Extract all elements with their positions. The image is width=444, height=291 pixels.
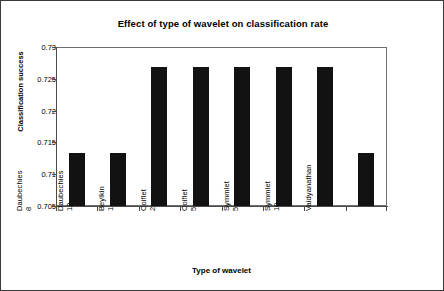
bar bbox=[151, 67, 167, 206]
y-axis-tick-label: 0.725 bbox=[22, 74, 56, 83]
y-axis-tick-label: 0.73 bbox=[22, 43, 56, 52]
bar bbox=[193, 67, 209, 206]
y-axis-tick-labels: 0.7050.710.7150.720.7250.73 bbox=[1, 1, 56, 291]
chart-title: Effect of type of wavelet on classificat… bbox=[1, 18, 444, 29]
x-axis-tick-labels: Daubechies 8Daubechies 12Beylkin 1Coifle… bbox=[56, 211, 387, 263]
x-axis-title: Type of wavelet bbox=[56, 266, 387, 275]
y-axis-tick-label: 0.72 bbox=[22, 106, 56, 115]
chart-figure: Effect of type of wavelet on classificat… bbox=[0, 0, 444, 291]
bar bbox=[317, 67, 333, 206]
x-axis-tick-label: Vaidyanathan bbox=[305, 189, 357, 211]
bar bbox=[358, 153, 374, 206]
y-axis-tick-label: 0.71 bbox=[22, 170, 56, 179]
y-axis-tick-label: 0.715 bbox=[22, 138, 56, 147]
bar bbox=[234, 67, 250, 206]
bar bbox=[276, 67, 292, 206]
